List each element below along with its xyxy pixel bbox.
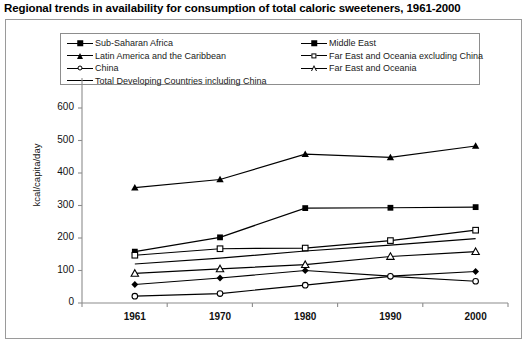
marker-circle-open-icon <box>302 282 308 288</box>
marker-square-filled-icon <box>302 205 308 211</box>
marker-square-filled-icon <box>217 234 223 240</box>
marker-square-open-icon <box>302 245 308 251</box>
marker-diamond-filled-icon <box>302 267 309 274</box>
marker-circle-open-icon <box>132 293 138 299</box>
marker-circle-open-icon <box>217 291 223 297</box>
chart-container: Regional trends in availability for cons… <box>0 0 527 343</box>
marker-triangle-filled-icon <box>472 142 479 149</box>
marker-square-filled-icon <box>473 204 479 210</box>
marker-square-open-icon <box>217 246 223 252</box>
marker-diamond-filled-icon <box>131 281 138 288</box>
marker-square-open-icon <box>132 252 138 258</box>
marker-diamond-filled-icon <box>472 268 479 275</box>
marker-circle-open-icon <box>473 278 479 284</box>
marker-circle-open-icon <box>388 274 394 280</box>
plot-area <box>0 0 527 343</box>
marker-square-filled-icon <box>388 205 394 211</box>
series-latin-america-and-the-caribbean <box>131 142 479 190</box>
marker-diamond-filled-icon <box>217 275 224 282</box>
marker-square-open-icon <box>388 238 394 244</box>
series-china <box>132 274 478 299</box>
marker-square-open-icon <box>473 227 479 233</box>
